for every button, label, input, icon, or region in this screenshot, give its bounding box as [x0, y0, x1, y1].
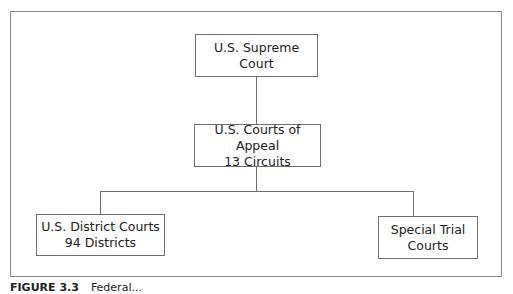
node-label: U.S. Supreme Court [196, 40, 317, 72]
node-sublabel: 94 Districts [65, 235, 136, 251]
caption-text: Federal... [91, 281, 142, 294]
connector-supreme-appeals [256, 77, 257, 124]
node-sublabel: 13 Circuits [224, 154, 291, 170]
node-district-courts: U.S. District Courts 94 Districts [36, 214, 165, 256]
connector-to-special [413, 191, 414, 216]
connector-horizontal [100, 191, 414, 192]
node-sublabel: Courts [408, 238, 449, 254]
figure-caption: FIGURE 3.3Federal... [10, 281, 142, 294]
node-label: U.S. Courts of Appeal [195, 122, 320, 154]
node-special-trial-courts: Special Trial Courts [378, 216, 478, 259]
node-label: Special Trial [391, 222, 466, 238]
connector-to-district [100, 191, 101, 214]
node-courts-of-appeal: U.S. Courts of Appeal 13 Circuits [194, 124, 321, 167]
caption-label: FIGURE 3.3 [10, 281, 79, 294]
node-label: U.S. District Courts [41, 219, 160, 235]
connector-appeals-down [256, 167, 257, 192]
node-supreme-court: U.S. Supreme Court [195, 34, 318, 77]
